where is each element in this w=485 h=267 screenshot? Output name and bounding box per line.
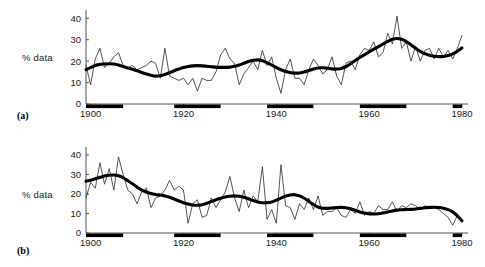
figure-two-panel-timeseries: % data (a) 01020304019001920194019601980… — [0, 0, 485, 267]
period-bar — [453, 234, 462, 238]
x-tick-label: 1960 — [359, 108, 380, 119]
period-bar — [360, 105, 406, 109]
x-tick-label: 1920 — [173, 237, 194, 248]
x-tick-label: 1920 — [173, 108, 194, 119]
chart-canvas-a: 01020304019001920194019601980 — [0, 0, 485, 133]
y-tick-label: 20 — [70, 56, 81, 67]
period-bar — [267, 105, 313, 109]
y-tick-label: 20 — [70, 188, 81, 199]
series-smoothed-trend — [86, 38, 462, 76]
period-bar — [86, 105, 123, 109]
period-bar — [174, 234, 220, 238]
y-tick-label: 40 — [70, 149, 81, 160]
x-tick-label: 1900 — [80, 237, 101, 248]
period-bar — [360, 234, 406, 238]
period-bar — [86, 234, 123, 238]
y-tick-label: 30 — [70, 34, 81, 45]
x-tick-label: 1960 — [359, 237, 380, 248]
period-bar — [267, 234, 313, 238]
y-tick-label: 40 — [70, 13, 81, 24]
x-tick-label: 1900 — [80, 108, 101, 119]
panel-a: % data (a) 01020304019001920194019601980 — [0, 0, 485, 133]
x-tick-label: 1940 — [266, 237, 287, 248]
chart-canvas-b: 01020304019001920194019601980 — [0, 133, 485, 267]
x-tick-label: 1980 — [451, 108, 472, 119]
period-bar — [453, 105, 462, 109]
x-tick-label: 1940 — [266, 108, 287, 119]
series-smoothed-trend — [86, 175, 462, 221]
y-tick-label: 10 — [70, 77, 81, 88]
y-tick-label: 30 — [70, 169, 81, 180]
x-tick-label: 1980 — [451, 237, 472, 248]
y-tick-label: 10 — [70, 208, 81, 219]
series-annual-values — [86, 16, 462, 93]
panel-b: % data (b) 01020304019001920194019601980 — [0, 133, 485, 267]
period-bar — [174, 105, 220, 109]
